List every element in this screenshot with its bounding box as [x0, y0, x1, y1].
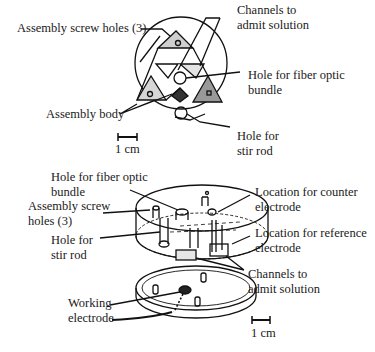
label-exp-screw-1: Assembly screw: [28, 199, 110, 213]
label-exp-fiber-2: bundle: [51, 185, 85, 199]
label-exp-reference-2: electrode: [255, 241, 301, 255]
label-top-screw-holes: Assembly screw holes (3): [17, 21, 147, 35]
label-exp-reference-1: Location for reference: [255, 226, 367, 240]
label-top-stir-2: stir rod: [237, 144, 273, 158]
label-top-channels-1: Channels to: [237, 3, 296, 17]
label-exp-stir-2: stir rod: [51, 248, 87, 262]
diagram-canvas: Assembly screw holes (3) Channels to adm…: [0, 0, 375, 352]
label-exp-stir-1: Hole for: [51, 233, 93, 247]
label-exp-scale: 1 cm: [251, 326, 276, 340]
label-exp-channels-2: admit solution: [248, 282, 320, 296]
label-exp-working-2: electrode: [68, 311, 114, 325]
label-top-assembly-body: Assembly body: [46, 107, 124, 121]
label-exp-screw-2: holes (3): [28, 214, 72, 228]
label-top-fiber-1: Hole for fiber optic: [248, 68, 345, 82]
label-top-scale: 1 cm: [115, 142, 140, 156]
label-exp-working-1: Working: [68, 296, 111, 310]
label-top-fiber-2: bundle: [248, 83, 282, 97]
label-exp-channels-1: Channels to: [248, 267, 307, 281]
label-exp-counter-2: electrode: [255, 200, 301, 214]
label-top-channels-2: admit solution: [237, 18, 309, 32]
label-exp-counter-1: Location for counter: [255, 185, 358, 199]
label-top-stir-1: Hole for: [237, 129, 279, 143]
label-exp-fiber-1: Hole for fiber optic: [51, 170, 148, 184]
